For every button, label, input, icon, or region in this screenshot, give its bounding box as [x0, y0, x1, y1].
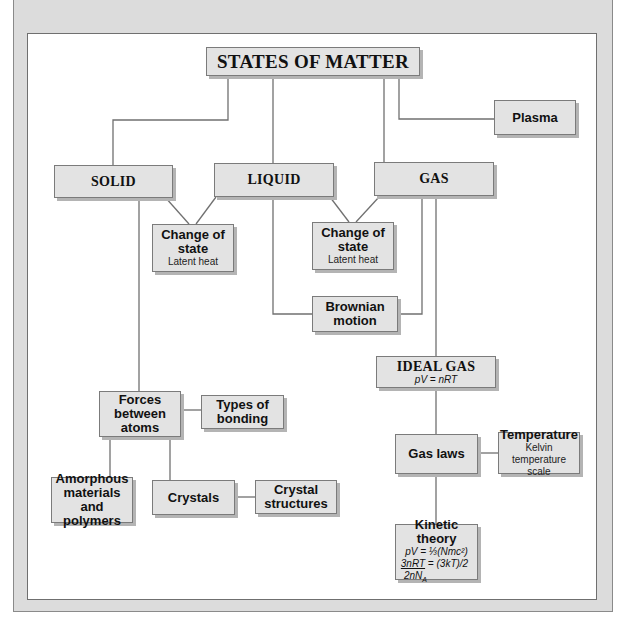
- node-label: structures: [264, 497, 328, 511]
- node-label: LIQUID: [247, 172, 300, 188]
- node-label: bonding: [217, 412, 268, 426]
- node-change-of-state-liquid-gas: Change of state Latent heat: [312, 222, 394, 270]
- node-label: Crystal: [274, 483, 318, 497]
- node-crystals: Crystals: [152, 480, 235, 515]
- node-kinetic-theory: Kinetic theory pV = ⅓(Nmc²) 3nRT = (3kT)…: [395, 524, 478, 580]
- node-plasma: Plasma: [494, 100, 576, 135]
- node-label: state: [178, 242, 208, 256]
- node-label: Change of: [321, 226, 385, 240]
- node-sublabel: Latent heat: [168, 256, 218, 268]
- node-label: Forces: [119, 393, 162, 407]
- node-label: SOLID: [91, 174, 136, 190]
- node-states-of-matter: STATES OF MATTER: [206, 47, 420, 76]
- node-forces-between-atoms: Forces between atoms: [99, 391, 181, 437]
- node-label: Types of: [216, 398, 269, 412]
- node-label: IDEAL GAS: [397, 359, 476, 374]
- node-formula: pV = nRT: [415, 374, 457, 386]
- node-label: atoms: [121, 421, 159, 435]
- node-change-of-state-solid-liquid: Change of state Latent heat: [152, 224, 234, 272]
- node-formula: pV = ⅓(Nmc²): [405, 546, 468, 558]
- node-gas: GAS: [374, 162, 494, 196]
- node-sublabel: scale: [527, 466, 550, 478]
- node-sublabel: Latent heat: [328, 254, 378, 266]
- node-label: Crystals: [168, 491, 219, 505]
- node-label: GAS: [419, 171, 449, 187]
- node-label: materials and: [52, 486, 132, 514]
- node-label: between: [114, 407, 166, 421]
- node-crystal-structures: Crystal structures: [255, 480, 337, 514]
- node-label: state: [338, 240, 368, 254]
- node-formula-denominator: 2nN: [404, 570, 422, 581]
- node-brownian-motion: Brownian motion: [312, 296, 398, 332]
- node-liquid: LIQUID: [214, 163, 334, 197]
- node-formula: = (3kT)/2: [425, 558, 468, 569]
- node-solid: SOLID: [54, 165, 173, 198]
- node-label: polymers: [63, 514, 121, 528]
- node-label: Plasma: [512, 111, 558, 125]
- node-label: Gas laws: [408, 447, 464, 461]
- node-label: Temperature: [500, 428, 578, 442]
- node-temperature: Temperature Kelvin temperature scale: [498, 432, 580, 474]
- node-label: Kinetic theory: [396, 518, 477, 546]
- node-label: motion: [333, 314, 376, 328]
- node-sublabel: Kelvin temperature: [499, 442, 579, 466]
- node-gas-laws: Gas laws: [395, 434, 478, 474]
- node-amorphous-materials: Amorphous materials and polymers: [51, 477, 133, 523]
- node-title: STATES OF MATTER: [217, 51, 409, 73]
- node-label: Change of: [161, 228, 225, 242]
- node-formula-numerator: 3nRT: [401, 558, 425, 569]
- node-label: Amorphous: [56, 472, 129, 486]
- node-types-of-bonding: Types of bonding: [201, 395, 284, 429]
- node-formula-subscript: A: [422, 576, 427, 583]
- node-label: Brownian: [325, 300, 384, 314]
- node-ideal-gas: IDEAL GAS pV = nRT: [376, 356, 496, 388]
